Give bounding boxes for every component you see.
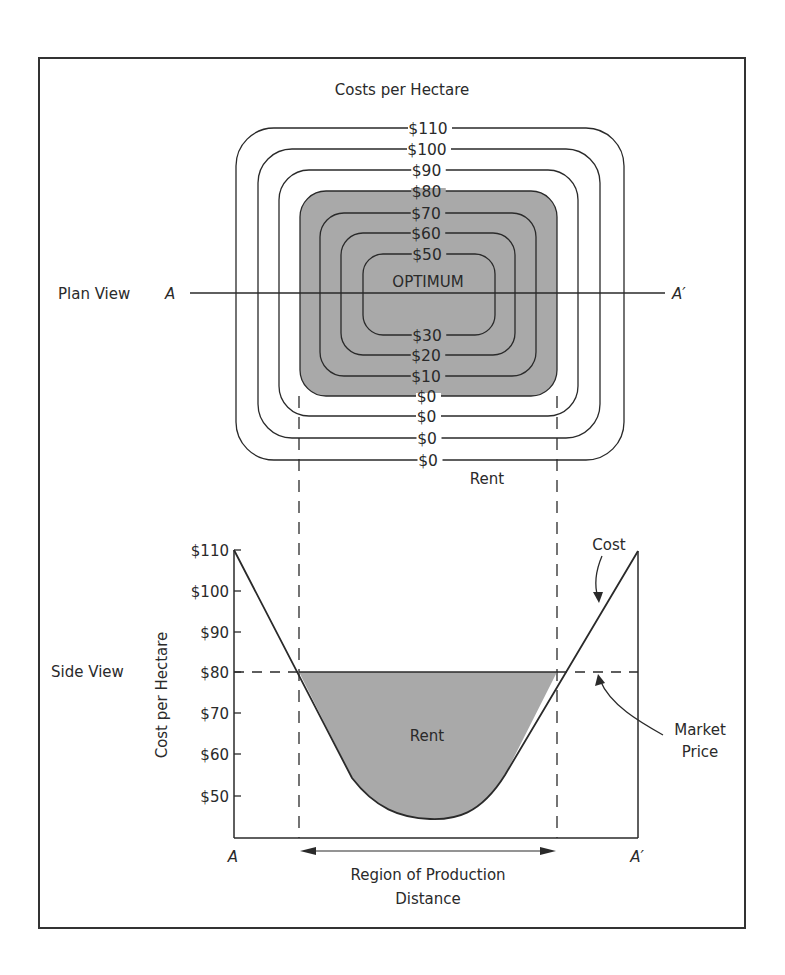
contour-label-bottom: $0 [417, 408, 437, 426]
x-end-label: A′ [629, 848, 644, 866]
market-price-pointer-arrow [600, 680, 663, 735]
section-end-label: A′ [671, 285, 686, 303]
x-start-label: A [227, 848, 238, 866]
y-tick-label: $70 [200, 705, 229, 723]
section-start-label: A [164, 285, 175, 303]
y-tick-label: $80 [200, 664, 229, 682]
region-of-production-label: Region of Production [350, 866, 505, 884]
rent-area [299, 672, 557, 819]
side-view-label: Side View [51, 663, 124, 681]
cost-contours: $110$0$100$0$90$0$80$0$70$10$60$20$50$30 [236, 120, 624, 470]
contour-label-bottom: $10 [411, 368, 441, 386]
contour-label-top: $80 [412, 183, 442, 201]
contour-label-top: $100 [407, 141, 446, 159]
x-axis-label: Distance [395, 890, 461, 908]
cost-label: Cost [592, 536, 625, 554]
market-price-arrowhead-icon [595, 674, 605, 686]
cost-pointer-arrow [596, 556, 602, 598]
y-tick-label: $50 [200, 788, 229, 806]
region-arrow-left-icon [300, 847, 316, 855]
region-arrow-right-icon [540, 847, 556, 855]
market-price-label-1: Market [674, 721, 726, 739]
y-axis-label: Cost per Hectare [153, 632, 171, 759]
y-tick-label: $60 [200, 746, 229, 764]
plan-view-label: Plan View [58, 285, 130, 303]
contour-label-bottom: $20 [411, 347, 441, 365]
plan-rent-label: Rent [470, 470, 504, 488]
optimum-label: OPTIMUM [392, 273, 463, 291]
contour-label-top: $90 [412, 162, 442, 180]
contour-label-bottom: $30 [412, 327, 442, 345]
contour-label-top: $70 [411, 205, 441, 223]
contour-label-bottom: $0 [418, 452, 438, 470]
side-rent-label: Rent [410, 727, 444, 745]
contour-label-top: $50 [412, 246, 442, 264]
contour-label-top: $110 [408, 120, 447, 138]
contour-label-top: $60 [411, 225, 441, 243]
cost-arrowhead-icon [593, 592, 603, 603]
y-tick-label: $90 [200, 624, 229, 642]
y-tick-label: $100 [191, 583, 229, 601]
y-tick-label: $110 [191, 542, 229, 560]
plan-view-title: Costs per Hectare [335, 81, 470, 99]
contour-label-bottom: $0 [417, 388, 437, 406]
von-thunen-rent-diagram: Costs per Hectare $110$0$100$0$90$0$80$0… [0, 0, 785, 975]
market-price-label-2: Price [682, 743, 719, 761]
contour-label-bottom: $0 [417, 430, 437, 448]
